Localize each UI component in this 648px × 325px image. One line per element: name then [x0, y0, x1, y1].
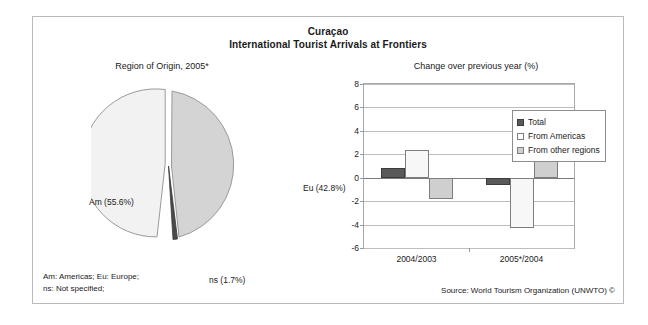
figure-title-subject: International Tourist Arrivals at Fronti… [33, 38, 623, 52]
bar-total-1 [381, 168, 405, 177]
note-ns: ns: Not specified; [43, 283, 139, 295]
legend-label-total: Total [528, 117, 546, 127]
y-tick-mark [360, 154, 364, 155]
y-tick-mark [360, 131, 364, 132]
pie-chart: Eu (42.8%) Am (55.6%) ns (1.7%) [91, 87, 247, 243]
pie-label-ns: ns (1.7%) [209, 275, 245, 285]
x-tick-label: 2005*/2004 [500, 254, 544, 264]
legend-swatch-total-icon [517, 119, 524, 126]
figure-title-country: Curaçao [33, 25, 623, 38]
bar-americas-2 [510, 178, 534, 228]
pie-chart-panel: Region of Origin, 2005* Eu (42.8%) Am (5… [37, 61, 325, 271]
y-tick-label: 2 [354, 149, 359, 159]
pie-slice-eu [172, 91, 234, 237]
x-tick-label: 2004/2003 [396, 254, 436, 264]
figure-notes: Am: Americas; Eu: Europe; ns: Not specif… [43, 271, 139, 295]
y-tick-mark [360, 178, 364, 179]
legend-swatch-from-other-regions-icon [517, 147, 524, 154]
y-tick-label: -2 [351, 196, 359, 206]
y-tick-label: 8 [354, 79, 359, 89]
y-tick-label: -4 [351, 220, 359, 230]
x-tick-mark [469, 248, 470, 252]
bar-americas-1 [405, 150, 429, 178]
pie-chart-svg [91, 87, 247, 243]
legend-label-from-americas: From Americas [528, 131, 585, 141]
y-tick-mark [360, 201, 364, 202]
bar-other-1 [429, 178, 453, 199]
legend-swatch-from-americas-icon [517, 133, 524, 140]
gridline [364, 225, 574, 226]
gridline [364, 84, 574, 85]
y-tick-mark [360, 84, 364, 85]
y-tick-label: 4 [354, 126, 359, 136]
gridline [364, 201, 574, 202]
legend-label-from-other-regions: From other regions [528, 145, 600, 155]
bar-chart-panel: Change over previous year (%) 86420-2-4-… [329, 61, 621, 281]
figure-title: Curaçao International Tourist Arrivals a… [33, 25, 623, 52]
zero-line [364, 178, 574, 179]
pie-slice-am [91, 89, 165, 237]
y-tick-mark [360, 225, 364, 226]
bar-total-2 [486, 178, 510, 185]
y-tick-mark [360, 107, 364, 108]
figure-frame: Curaçao International Tourist Arrivals a… [32, 16, 624, 304]
chart-legend: Total From Americas From other regions [512, 110, 606, 162]
pie-label-am: Am (55.6%) [89, 197, 134, 207]
legend-item-total: Total [517, 115, 600, 129]
y-tick-label: -6 [351, 243, 359, 253]
legend-item-from-americas: From Americas [517, 129, 600, 143]
pie-chart-title: Region of Origin, 2005* [37, 61, 287, 71]
bar-chart-title: Change over previous year (%) [351, 61, 601, 71]
y-tick-label: 6 [354, 102, 359, 112]
note-abbreviations: Am: Americas; Eu: Europe; [43, 271, 139, 283]
figure-source: Source: World Tourism Organization (UNWT… [441, 286, 615, 295]
y-tick-mark [360, 248, 364, 249]
bar-chart-plot-area: 86420-2-4-6 2004/20032005*/2004 Total Fr… [363, 83, 575, 249]
y-tick-label: 0 [354, 173, 359, 183]
legend-item-from-other-regions: From other regions [517, 143, 600, 157]
gridline [364, 107, 574, 108]
